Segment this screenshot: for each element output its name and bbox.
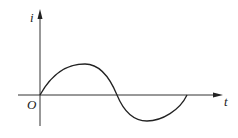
sine-curve	[40, 64, 187, 121]
origin-label: O	[27, 98, 36, 111]
x-axis-label: t	[224, 95, 228, 108]
diagram-svg	[0, 0, 238, 138]
sine-wave-diagram: i t O	[0, 0, 238, 138]
y-axis-arrow-icon	[38, 9, 43, 19]
x-axis-arrow-icon	[213, 93, 223, 98]
y-axis-label: i	[30, 11, 34, 24]
